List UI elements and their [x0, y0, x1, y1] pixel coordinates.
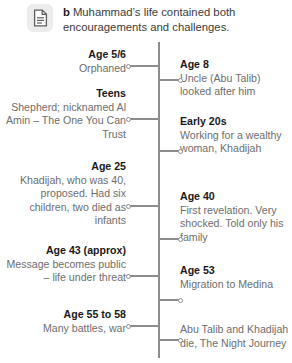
timeline-node-marker	[178, 298, 183, 303]
timeline-entry: TeensShepherd; nicknamed Al Amin – The O…	[0, 87, 126, 141]
header-title-text: Muhammad’s life contained both encourage…	[63, 6, 235, 33]
timeline-entry-body: Uncle (Abu Talib) looked after him	[180, 72, 292, 99]
timeline-connector	[130, 205, 160, 207]
timeline-node-marker	[126, 64, 131, 69]
timeline-entry-heading: Age 8	[180, 58, 292, 72]
timeline-entry-body: Shepherd; nicknamed Al Amin – The One Yo…	[0, 101, 126, 142]
timeline-node-marker	[126, 274, 131, 279]
timeline-entry: Age 55 to 58Many battles, war	[43, 308, 126, 335]
timeline-node-marker	[126, 204, 131, 209]
timeline-entry-heading: Age 5/6	[79, 48, 126, 62]
timeline-entry-heading: Age 25	[0, 160, 126, 174]
timeline-node-marker	[126, 324, 131, 329]
timeline-entry-body: Abu Talib and Khadijah die, The Night Jo…	[180, 323, 292, 350]
header-title: bMuhammad’s life contained both encourag…	[63, 4, 288, 34]
timeline-entry: Age 5/6Orphaned	[79, 48, 126, 75]
timeline-node-marker	[178, 338, 183, 343]
timeline-entry-body: Orphaned	[79, 62, 126, 76]
timeline-entry-heading: Early 20s	[180, 115, 292, 129]
timeline-connector	[130, 65, 160, 67]
timeline-connector	[130, 325, 160, 327]
timeline-entry-heading: Age 55 to 58	[43, 308, 126, 322]
timeline-connector	[130, 275, 160, 277]
timeline-entry-heading: Age 43 (approx)	[0, 244, 126, 258]
timeline-entry-heading: Age 53	[180, 264, 292, 278]
timeline-entry-body: Migration to Medina	[180, 278, 292, 292]
timeline-entry: Abu Talib and Khadijah die, The Night Jo…	[180, 323, 292, 350]
timeline-entry: Age 43 (approx)Message becomes public – …	[0, 244, 126, 285]
timeline-axis	[158, 42, 160, 358]
timeline-connector	[130, 118, 160, 120]
timeline-entry-heading: Teens	[0, 87, 126, 101]
timeline-node-marker	[178, 78, 183, 83]
timeline-node-marker	[178, 149, 183, 154]
timeline: Age 5/6OrphanedAge 8Uncle (Abu Talib) lo…	[0, 42, 292, 363]
timeline-entry: Age 40First revelation. Very shocked. To…	[180, 190, 292, 244]
timeline-entry: Age 53Migration to Medina	[180, 264, 292, 291]
timeline-entry-body: Many battles, war	[43, 322, 126, 336]
document-icon	[27, 4, 53, 32]
timeline-entry: Early 20sWorking for a wealthy woman, Kh…	[180, 115, 292, 156]
timeline-entry-heading: Age 40	[180, 190, 292, 204]
timeline-entry: Age 8Uncle (Abu Talib) looked after him	[180, 58, 292, 99]
timeline-entry-body: Khadijah, who was 40, proposed. Had six …	[0, 174, 126, 228]
header-marker-label: b	[63, 6, 70, 18]
timeline-entry-body: First revelation. Very shocked. Told onl…	[180, 204, 292, 245]
timeline-entry-body: Message becomes public – life under thre…	[0, 258, 126, 285]
timeline-node-marker	[178, 237, 183, 242]
timeline-entry: Age 25Khadijah, who was 40, proposed. Ha…	[0, 160, 126, 228]
timeline-node-marker	[126, 117, 131, 122]
header: bMuhammad’s life contained both encourag…	[0, 0, 292, 42]
timeline-entry-body: Working for a wealthy woman, Khadijah	[180, 129, 292, 156]
